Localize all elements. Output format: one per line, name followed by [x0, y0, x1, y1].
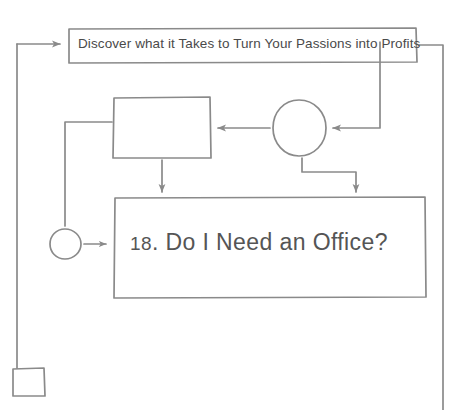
header-box-shape: [69, 28, 417, 63]
blank-box-left-feed-line: [65, 122, 112, 226]
flowchart-svg: [0, 0, 468, 410]
right-down-to-circle-arrow: [333, 42, 380, 128]
circle-node-shape: [273, 100, 326, 156]
small-circle-shape: [50, 229, 81, 259]
main-box-shape: [114, 197, 426, 298]
circle-to-main-box-arrow: [302, 158, 356, 192]
small-square-shape: [13, 368, 45, 396]
diagram-canvas: Discover what it Takes to Turn Your Pass…: [0, 0, 468, 410]
blank-box-shape: [113, 97, 211, 158]
header-to-right-rail-line: [419, 45, 443, 410]
